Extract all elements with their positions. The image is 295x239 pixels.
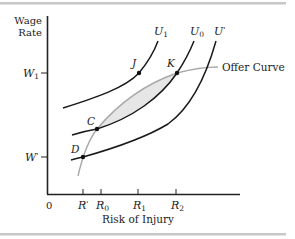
shaded-region: [97, 73, 177, 129]
curve-uprime-label: U': [214, 25, 225, 38]
bottom-rule: [0, 233, 286, 236]
y-tick-label-w1: W1: [23, 67, 39, 81]
x-tick-label-r0: R0: [95, 199, 109, 213]
point-d-label: D: [70, 143, 80, 155]
diagram-frame: J K C D U1 U0 U' Offer Curve Wage Rate W…: [0, 0, 295, 239]
point-j-label: J: [130, 57, 137, 69]
curve-u0-label: U0: [190, 25, 204, 39]
offer-curve-label: Offer Curve: [222, 61, 285, 73]
curve-u1-label: U1: [154, 25, 168, 39]
x-tick-label-r2: R2: [170, 199, 184, 213]
point-j: [137, 71, 141, 75]
x-tick-label-r1: R1: [132, 199, 146, 213]
x-axis-label: Risk of Injury: [102, 213, 174, 225]
x-tick-label-rprime: R': [77, 199, 89, 212]
point-c-label: C: [87, 115, 95, 127]
top-rule: [0, 2, 286, 5]
point-c: [95, 127, 99, 131]
y-tick-label-wprime: W': [25, 151, 39, 164]
origin-label: 0: [46, 200, 52, 211]
point-d: [81, 155, 85, 159]
point-k: [175, 71, 179, 75]
compensating-wage-diagram: J K C D U1 U0 U' Offer Curve Wage Rate W…: [0, 0, 295, 239]
y-axis-label-line1: Wage: [14, 15, 42, 26]
point-k-label: K: [166, 57, 176, 69]
offer-curve: [78, 67, 218, 176]
y-axis-label-line2: Rate: [18, 27, 42, 38]
